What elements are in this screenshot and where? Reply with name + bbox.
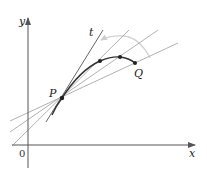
- point-q-label: Q: [134, 67, 143, 80]
- tangent-line-t: [46, 30, 103, 122]
- point-q2: [118, 55, 122, 59]
- secant-line-pq3: [12, 30, 129, 146]
- point-p-label: P: [48, 87, 57, 100]
- point-p: [60, 96, 64, 100]
- secant-line-pq: [10, 43, 178, 121]
- point-q3: [98, 59, 102, 63]
- tangent-label: t: [89, 26, 94, 39]
- approach-arc-arrow: [101, 36, 150, 58]
- origin-label: 0: [19, 148, 25, 159]
- y-axis-label: y: [18, 15, 26, 28]
- secant-line-pq2: [10, 30, 158, 132]
- point-q: [133, 61, 137, 65]
- x-axis-label: x: [189, 147, 196, 160]
- secant-tangent-diagram: y x 0 P Q t: [0, 0, 207, 178]
